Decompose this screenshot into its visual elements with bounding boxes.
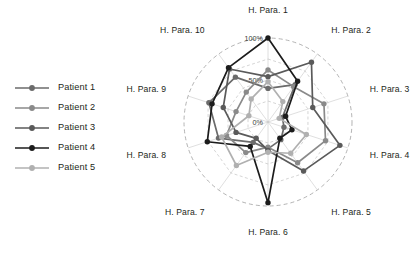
radar-chart-figure: Patient 1Patient 2Patient 3Patient 4Pati… bbox=[0, 0, 416, 255]
legend-swatch-line-marker bbox=[14, 102, 50, 114]
legend-item-4[interactable]: Patient 4 bbox=[14, 138, 122, 158]
series-point bbox=[226, 65, 231, 70]
legend-item-label: Patient 3 bbox=[58, 123, 95, 132]
series-point bbox=[310, 105, 315, 110]
axis-label-8: H. Para. 8 bbox=[126, 150, 166, 160]
tick-label-0pct: 0% bbox=[253, 118, 264, 127]
legend-item-1[interactable]: Patient 1 bbox=[14, 78, 122, 98]
series-point bbox=[321, 101, 326, 106]
series-point bbox=[277, 136, 282, 141]
series-point bbox=[265, 79, 270, 84]
series-point bbox=[209, 101, 214, 106]
series-point bbox=[265, 67, 270, 72]
legend-item-5[interactable]: Patient 5 bbox=[14, 158, 122, 178]
axis-label-1: H. Para. 1 bbox=[248, 5, 288, 15]
series-point bbox=[276, 116, 281, 121]
series-point bbox=[221, 105, 226, 110]
axis-label-9: H. Para. 9 bbox=[126, 84, 166, 94]
axis-label-2: H. Para. 2 bbox=[331, 25, 371, 35]
legend-item-3[interactable]: Patient 3 bbox=[14, 118, 122, 138]
series-point bbox=[246, 113, 251, 118]
series-point bbox=[280, 99, 285, 104]
radar-chart-plot: 0%50%100%H. Para. 1H. Para. 2H. Para. 3H… bbox=[120, 0, 416, 255]
series-point bbox=[337, 143, 342, 148]
series-point bbox=[253, 136, 258, 141]
series-point bbox=[249, 96, 254, 101]
legend-item-label: Patient 5 bbox=[58, 163, 95, 172]
series-point bbox=[265, 200, 270, 205]
series-point bbox=[283, 114, 288, 119]
axis-label-3: H. Para. 3 bbox=[370, 84, 410, 94]
series-point bbox=[265, 150, 270, 155]
series-point bbox=[244, 89, 249, 94]
legend-item-label: Patient 1 bbox=[58, 83, 95, 92]
legend-swatch-line-marker bbox=[14, 162, 50, 174]
series-point bbox=[248, 144, 253, 149]
series-point bbox=[265, 86, 270, 91]
series-point bbox=[295, 160, 300, 165]
axis-label-4: H. Para. 4 bbox=[370, 150, 410, 160]
axis-label-7: H. Para. 7 bbox=[165, 207, 205, 217]
legend-swatch-line-marker bbox=[14, 82, 50, 94]
series-point bbox=[309, 59, 314, 64]
series-point bbox=[304, 132, 309, 137]
series-point bbox=[323, 138, 328, 143]
series-point bbox=[265, 35, 270, 40]
series-point bbox=[265, 74, 270, 79]
series-point bbox=[233, 109, 238, 114]
axis-label-6: H. Para. 6 bbox=[248, 227, 288, 237]
series-point bbox=[205, 139, 210, 144]
series-point bbox=[219, 134, 224, 139]
series-point bbox=[234, 163, 239, 168]
series-point bbox=[301, 168, 306, 173]
series-point bbox=[288, 151, 293, 156]
legend-item-2[interactable]: Patient 2 bbox=[14, 98, 122, 118]
legend-swatch-line-marker bbox=[14, 122, 50, 134]
series-point bbox=[281, 124, 286, 129]
chart-legend: Patient 1Patient 2Patient 3Patient 4Pati… bbox=[14, 78, 122, 178]
tick-label-100pct: 100% bbox=[245, 34, 264, 43]
legend-item-label: Patient 4 bbox=[58, 143, 95, 152]
axis-label-10: H. Para. 10 bbox=[160, 25, 205, 35]
series-point bbox=[243, 150, 248, 155]
legend-item-label: Patient 2 bbox=[58, 103, 95, 112]
series-point bbox=[233, 74, 238, 79]
series-line bbox=[226, 70, 325, 163]
axis-label-5: H. Para. 5 bbox=[331, 207, 371, 217]
series-point bbox=[233, 130, 238, 135]
series-point bbox=[295, 79, 300, 84]
legend-swatch-line-marker bbox=[14, 142, 50, 154]
